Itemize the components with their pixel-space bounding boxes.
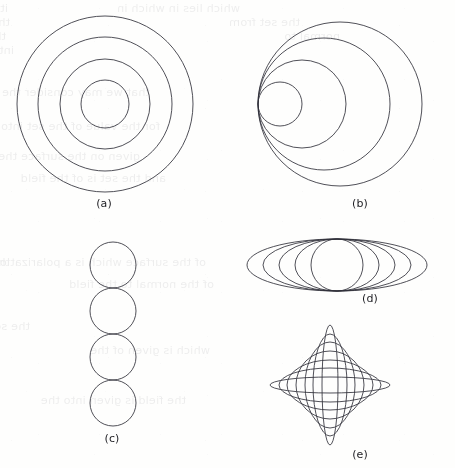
astroid-ellipse xyxy=(313,334,347,436)
chain-circle xyxy=(90,242,136,288)
panel-e xyxy=(250,310,410,460)
panel-a-caption: (a) xyxy=(74,197,134,210)
family-ellipse xyxy=(295,239,379,291)
ellipse-family-group xyxy=(247,239,427,291)
astroid-ellipse xyxy=(270,377,390,393)
concentric-circle-group xyxy=(17,16,193,192)
panel-b xyxy=(230,0,455,210)
panel-c xyxy=(60,230,180,440)
panel-b-drawing xyxy=(230,0,455,210)
tangent-circle xyxy=(258,22,422,186)
panel-e-caption: (e) xyxy=(330,448,390,461)
scanned-page: it was as a single particle from the fie… xyxy=(0,0,455,468)
chain-circle xyxy=(90,380,136,426)
tangent-circle xyxy=(258,38,390,170)
astroid-ellipse xyxy=(296,351,364,419)
tangent-circle-group xyxy=(258,22,422,186)
figure-panels: (a) (b) (c) (d) (e) xyxy=(0,0,455,468)
family-ellipse xyxy=(247,239,427,291)
panel-a-drawing xyxy=(0,0,220,210)
concentric-circle xyxy=(38,37,172,171)
circle-chain-group xyxy=(90,242,136,426)
panel-c-caption: (c) xyxy=(82,432,142,445)
family-ellipse xyxy=(263,239,411,291)
family-ellipse xyxy=(279,239,395,291)
chain-circle xyxy=(90,334,136,380)
tangent-circle xyxy=(258,82,302,126)
astroid-ellipse xyxy=(287,360,373,410)
astroid-ellipse xyxy=(305,342,355,428)
family-ellipse xyxy=(311,239,363,291)
panel-a xyxy=(0,0,220,210)
astroid-ellipse xyxy=(279,368,381,402)
astroid-ellipse-group xyxy=(270,325,390,445)
panel-b-caption: (b) xyxy=(330,197,390,210)
panel-d-caption: (d) xyxy=(340,292,400,305)
concentric-circle xyxy=(60,59,150,149)
concentric-circle xyxy=(17,16,193,192)
panel-e-drawing xyxy=(250,310,410,460)
panel-c-drawing xyxy=(60,230,180,440)
concentric-circle xyxy=(81,80,129,128)
chain-circle xyxy=(90,288,136,334)
